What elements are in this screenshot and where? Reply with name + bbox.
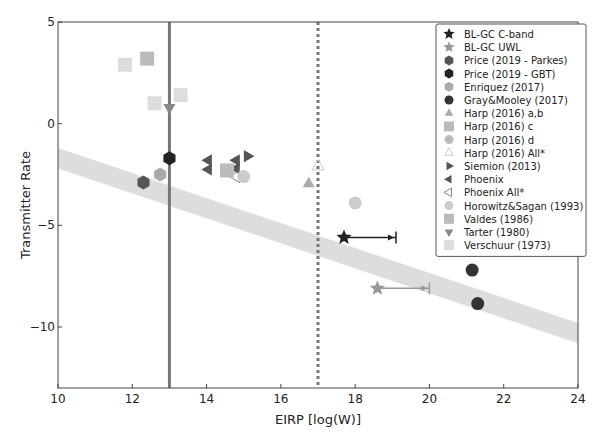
legend-label: Horowitz&Sagan (1993) bbox=[464, 201, 583, 212]
x-axis-label: EIRP [log(W)] bbox=[275, 412, 361, 427]
circle-marker bbox=[466, 264, 479, 277]
x-tick-label: 14 bbox=[199, 392, 214, 406]
legend-label: Enriquez (2017) bbox=[464, 82, 544, 93]
legend: BL-GC C-bandBL-GC UWLPrice (2019 - Parke… bbox=[436, 24, 586, 256]
square-marker bbox=[444, 121, 454, 131]
chart-figure: 101214161820222450−5−10EIRP [log(W)]Tran… bbox=[0, 0, 602, 434]
legend-label: Verschuur (1973) bbox=[464, 240, 551, 251]
legend-label: Harp (2016) c bbox=[464, 121, 533, 132]
x-tick-label: 22 bbox=[496, 392, 511, 406]
star-marker bbox=[370, 280, 385, 294]
x-tick-label: 18 bbox=[348, 392, 363, 406]
legend-label: BL-GC UWL bbox=[464, 42, 521, 53]
circle-marker bbox=[445, 135, 454, 144]
square-marker bbox=[174, 88, 188, 102]
square-marker bbox=[118, 58, 132, 72]
legend-label: Price (2019 - Parkes) bbox=[464, 55, 568, 66]
circle-marker bbox=[471, 297, 484, 310]
legend-label: Tarter (1980) bbox=[463, 227, 529, 238]
legend-label: Phoenix All* bbox=[464, 187, 524, 198]
legend-label: Harp (2016) d bbox=[464, 135, 534, 146]
legend-label: Price (2019 - GBT) bbox=[464, 69, 556, 80]
y-tick-label: −10 bbox=[30, 320, 55, 334]
circle-marker bbox=[445, 201, 454, 210]
star-marker bbox=[336, 230, 351, 245]
legend-label: Valdes (1986) bbox=[464, 214, 533, 225]
triangle-right-marker bbox=[244, 150, 255, 162]
x-tick-label: 20 bbox=[422, 392, 437, 406]
square-marker bbox=[444, 214, 454, 224]
square-marker bbox=[148, 96, 162, 110]
y-axis-label: Transmitter Rate bbox=[18, 151, 33, 260]
triangle-up-marker bbox=[303, 177, 315, 188]
square-marker bbox=[140, 52, 154, 66]
x-tick-label: 24 bbox=[570, 392, 585, 406]
legend-label: Harp (2016) All* bbox=[464, 148, 545, 159]
legend-label: Gray&Mooley (2017) bbox=[464, 95, 568, 106]
y-tick-label: −5 bbox=[37, 218, 55, 232]
circle-marker bbox=[445, 96, 454, 105]
y-tick-label: 5 bbox=[47, 15, 55, 29]
square-marker bbox=[220, 163, 234, 177]
y-tick-label: 0 bbox=[47, 117, 55, 131]
scatter-plot: 101214161820222450−5−10EIRP [log(W)]Tran… bbox=[0, 0, 602, 434]
square-marker bbox=[444, 240, 454, 250]
legend-label: BL-GC C-band bbox=[464, 29, 534, 40]
triangle-left-marker bbox=[201, 163, 212, 175]
legend-label: Phoenix bbox=[464, 174, 504, 185]
x-tick-label: 16 bbox=[273, 392, 288, 406]
x-tick-label: 10 bbox=[50, 392, 65, 406]
x-tick-label: 12 bbox=[125, 392, 140, 406]
circle-marker bbox=[349, 196, 362, 209]
hexagon-marker bbox=[163, 151, 175, 165]
triangle-down-marker bbox=[163, 104, 175, 115]
arrowhead bbox=[388, 235, 394, 241]
circle-marker bbox=[237, 170, 250, 183]
hexagon-marker bbox=[154, 168, 166, 182]
legend-label: Harp (2016) a,b bbox=[464, 108, 543, 119]
legend-label: Siemion (2013) bbox=[464, 161, 541, 172]
